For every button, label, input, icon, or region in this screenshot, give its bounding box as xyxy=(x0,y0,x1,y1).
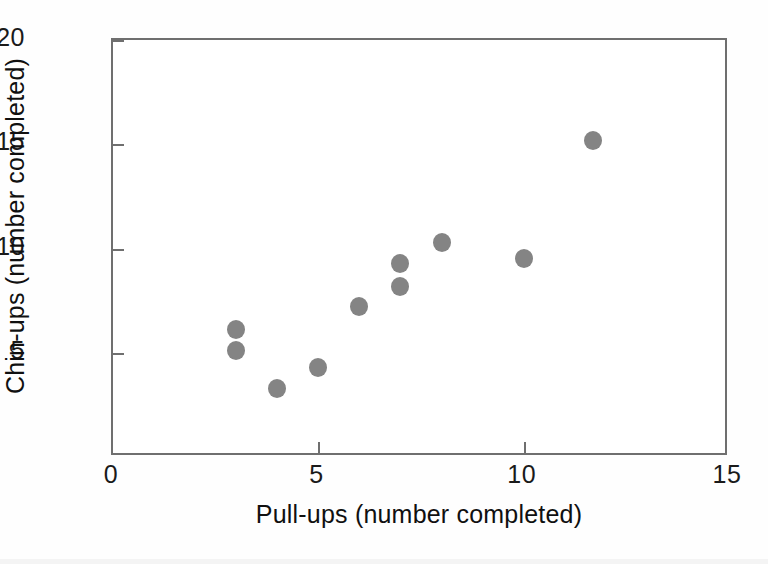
data-point xyxy=(391,254,409,273)
y-axis-title: Chin-ups (number completed) xyxy=(1,18,37,435)
y-tick-mark xyxy=(113,249,124,251)
data-point xyxy=(227,341,245,360)
data-point xyxy=(268,379,286,398)
page-edge-artifact xyxy=(0,559,768,564)
data-point xyxy=(433,233,451,252)
x-tick-mark xyxy=(318,442,320,453)
data-point xyxy=(309,358,327,377)
x-tick-label: 0 xyxy=(76,462,146,487)
x-tick-mark xyxy=(524,442,526,453)
y-tick-mark xyxy=(113,353,124,355)
x-axis-title: Pull-ups (number completed) xyxy=(111,500,727,529)
data-point xyxy=(584,131,602,150)
x-tick-label: 5 xyxy=(281,462,351,487)
y-tick-mark xyxy=(113,144,124,146)
data-point xyxy=(227,320,245,339)
x-tick-label: 10 xyxy=(487,462,557,487)
data-point xyxy=(515,249,533,268)
data-point xyxy=(350,297,368,316)
plot-area xyxy=(111,38,727,455)
y-tick-mark xyxy=(113,40,124,42)
scatter-plot-figure: 5101520 051015 Pull-ups (number complete… xyxy=(0,0,768,564)
x-tick-label: 15 xyxy=(692,462,762,487)
data-point xyxy=(391,277,409,296)
